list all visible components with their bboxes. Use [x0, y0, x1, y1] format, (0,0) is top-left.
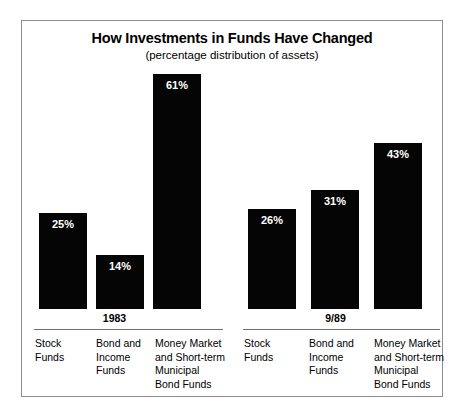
bar-group-9-89: 26% 31% 43% 9/89 Stock Funds Bond and [231, 21, 444, 398]
bar-value-label: 31% [311, 195, 359, 207]
axis-rule [243, 329, 440, 330]
chart-figure: How Investments in Funds Have Changed (p… [21, 20, 443, 397]
category-label-bond-income-funds: Bond and Income Funds [96, 337, 152, 378]
bar-bond-income-funds-1983: 14% [96, 255, 144, 309]
category-labels: Stock Funds Bond and Income Funds Money … [22, 337, 227, 397]
axis-rule [34, 329, 223, 330]
bar-value-label: 43% [374, 148, 422, 160]
bar-stock-funds-1983: 25% [39, 213, 87, 309]
bar-money-market-1983: 61% [153, 74, 201, 309]
category-label-stock-funds: Stock Funds [244, 337, 302, 364]
bar-group-1983: 25% 14% 61% 1983 Stock Funds Bond and [22, 21, 227, 398]
bar-group-plot: 26% 31% 43% [231, 21, 444, 309]
bar-bond-income-funds-9-89: 31% [311, 190, 359, 309]
bar-stock-funds-9-89: 26% [248, 209, 296, 309]
bar-value-label: 26% [248, 214, 296, 226]
category-labels: Stock Funds Bond and Income Funds Money … [231, 337, 444, 397]
category-label-money-market: Money Market and Short-term Municipal Bo… [374, 337, 448, 391]
group-year-label-1983: 1983 [12, 312, 217, 324]
group-year-label-9-89: 9/89 [229, 312, 442, 324]
bar-group-plot: 25% 14% 61% [22, 21, 227, 309]
bar-value-label: 14% [96, 260, 144, 272]
bar-money-market-9-89: 43% [374, 143, 422, 309]
category-label-money-market: Money Market and Short-term Municipal Bo… [155, 337, 229, 391]
bar-value-label: 61% [153, 79, 201, 91]
category-label-stock-funds: Stock Funds [35, 337, 93, 364]
category-label-bond-income-funds: Bond and Income Funds [309, 337, 365, 378]
bar-value-label: 25% [39, 218, 87, 230]
